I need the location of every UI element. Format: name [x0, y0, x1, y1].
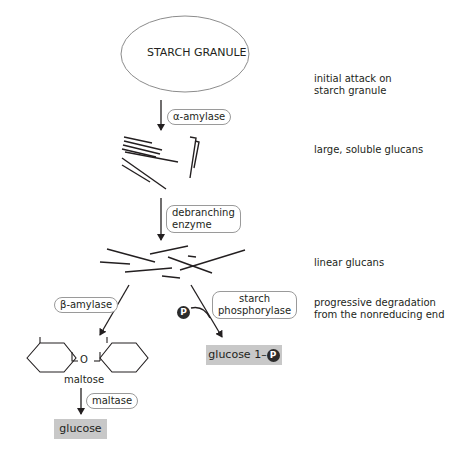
stage-note-line: initial attack on [314, 73, 392, 85]
stage-note-line: large, soluble glucans [314, 144, 423, 156]
debranching-line1: debranching [172, 207, 235, 219]
maltase-label: maltase [86, 393, 138, 409]
stage-note-line: from the nonreducing end [314, 309, 445, 321]
stage-note-line: progressive degradation [314, 297, 445, 309]
glucose-product-box: glucose [54, 419, 107, 439]
phosphate-input-curve [191, 307, 210, 318]
phosphate-icon: P [177, 306, 190, 319]
glucose-1p-label: glucose 1– [208, 348, 266, 361]
glucose-1-phosphate-box: glucose 1–P [206, 345, 282, 365]
stage-note-line: starch granule [314, 85, 392, 97]
stage-note-large-glucans: large, soluble glucans [314, 144, 423, 156]
glycosidic-oxygen: O [80, 354, 88, 365]
glucose-label: glucose [59, 422, 101, 435]
starch-phosphorylase-label: starch phosphorylase [212, 291, 297, 319]
stage-note-progressive-degradation: progressive degradation from the nonredu… [314, 297, 445, 321]
pathway-diagram [0, 0, 456, 467]
phosphorylase-line2: phosphorylase [218, 305, 291, 317]
alpha-amylase-label: α-amylase [167, 109, 231, 125]
stage-note-line: linear glucans [314, 257, 384, 269]
large-glucans-icon [122, 137, 199, 189]
maltose-label: maltose [64, 374, 104, 385]
starch-granule-label: STARCH GRANULE [147, 46, 247, 59]
linear-glucans-icon [100, 246, 245, 278]
phosphate-icon: P [267, 349, 280, 362]
phosphate-input: P [177, 302, 190, 321]
stage-note-linear-glucans: linear glucans [314, 257, 384, 269]
phosphorylase-line1: starch [218, 293, 291, 305]
debranching-enzyme-label: debranching enzyme [166, 205, 241, 233]
stage-note-initial-attack: initial attack on starch granule [314, 73, 392, 97]
beta-amylase-label: β-amylase [54, 297, 118, 313]
debranching-line2: enzyme [172, 219, 235, 231]
